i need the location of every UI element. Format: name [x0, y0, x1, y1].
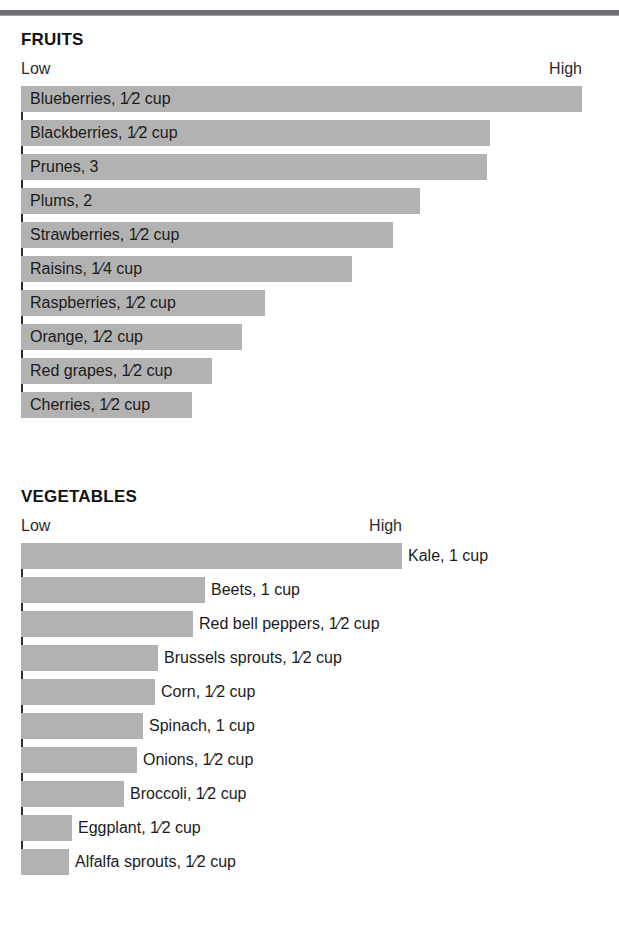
section-title-vegetables: VEGETABLES: [21, 487, 137, 507]
bar: [21, 713, 143, 739]
bar-label: Prunes, 3: [30, 154, 98, 180]
bar-label: Onions, 1⁄2 cup: [137, 747, 253, 773]
bar-label: Blackberries, 1⁄2 cup: [30, 120, 178, 146]
bar-label: Red bell peppers, 1⁄2 cup: [193, 611, 380, 637]
bar: [21, 815, 72, 841]
bar-label: Alfalfa sprouts, 1⁄2 cup: [69, 849, 236, 875]
axis-low-label-fruits: Low: [21, 60, 50, 78]
bar: [21, 645, 158, 671]
section-title-fruits: FRUITS: [21, 30, 84, 50]
bar-label: Orange, 1⁄2 cup: [30, 324, 143, 350]
bar: [21, 679, 155, 705]
bar-label: Plums, 2: [30, 188, 92, 214]
top-divider-rule: [0, 10, 619, 15]
bar-label: Eggplant, 1⁄2 cup: [72, 815, 201, 841]
chart-page: FRUITS Low High Blueberries, 1⁄2 cupBlac…: [0, 0, 619, 948]
bar-label: Raspberries, 1⁄2 cup: [30, 290, 176, 316]
bar: [21, 747, 137, 773]
bar-label: Brussels sprouts, 1⁄2 cup: [158, 645, 342, 671]
bar-label: Cherries, 1⁄2 cup: [30, 392, 150, 418]
bar-label: Beets, 1 cup: [205, 577, 300, 603]
bar-label: Corn, 1⁄2 cup: [155, 679, 255, 705]
axis-low-label-vegetables: Low: [21, 517, 50, 535]
bar-label: Red grapes, 1⁄2 cup: [30, 358, 172, 384]
axis-high-label-vegetables: High: [369, 517, 402, 535]
bar-label: Raisins, 1⁄4 cup: [30, 256, 142, 282]
bar: [21, 611, 193, 637]
bar-label: Spinach, 1 cup: [143, 713, 255, 739]
bar-label: Kale, 1 cup: [402, 543, 488, 569]
bar-label: Blueberries, 1⁄2 cup: [30, 86, 171, 112]
bar: [21, 781, 124, 807]
bar: [21, 849, 69, 875]
axis-high-label-fruits: High: [549, 60, 582, 78]
bar: [21, 577, 205, 603]
bar: [21, 543, 402, 569]
bar-label: Broccoli, 1⁄2 cup: [124, 781, 247, 807]
bar-label: Strawberries, 1⁄2 cup: [30, 222, 179, 248]
